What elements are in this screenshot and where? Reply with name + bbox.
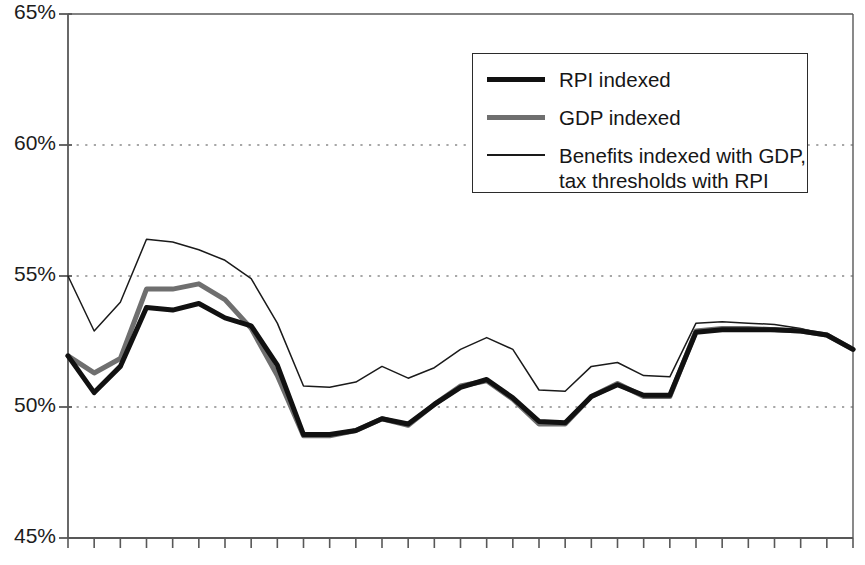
y-tick-label-45: 45%	[2, 524, 56, 548]
legend-swatch-gdp-icon	[473, 104, 559, 130]
legend-swatch-rpi-icon	[473, 66, 559, 92]
legend-swatch-benefits-icon	[473, 142, 559, 168]
y-axis-ticks-group	[59, 14, 72, 538]
x-axis-ticks-group	[68, 538, 853, 548]
y-tick-label-50: 50%	[2, 393, 56, 417]
legend-label-gdp: GDP indexed	[559, 104, 681, 130]
legend-label-benefits: Benefits indexed with GDP, tax threshold…	[559, 142, 806, 193]
series-line-benefits	[68, 239, 853, 391]
legend-item-benefits: Benefits indexed with GDP, tax threshold…	[473, 142, 807, 193]
legend-label-rpi: RPI indexed	[559, 66, 671, 92]
chart-legend: RPI indexed GDP indexed Benefits indexed…	[472, 53, 808, 193]
chart-container: 65% 60% 55% 50% 45% RPI indexed GDP inde…	[0, 0, 865, 565]
y-tick-label-60: 60%	[2, 131, 56, 155]
legend-item-gdp: GDP indexed	[473, 104, 807, 130]
y-tick-label-65: 65%	[2, 0, 56, 24]
legend-item-rpi: RPI indexed	[473, 66, 807, 92]
data-series-group	[68, 239, 853, 436]
y-tick-label-55: 55%	[2, 262, 56, 286]
